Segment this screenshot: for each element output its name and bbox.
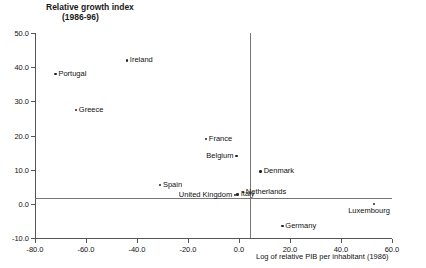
y-axis-line <box>35 33 36 239</box>
zero-vertical-line <box>250 33 251 238</box>
x-tick-label: -60.0 <box>66 245 106 254</box>
y-tick-mark <box>31 33 35 34</box>
y-tick-mark <box>31 170 35 171</box>
scatter-chart: Relative growth index (1986-96) 50.040.0… <box>0 0 426 268</box>
data-point-label: Greece <box>79 106 104 114</box>
y-tick-label: 20.0 <box>1 132 29 141</box>
x-tick-label: 0.0 <box>219 245 259 254</box>
data-point-marker <box>205 138 208 141</box>
chart-title-line1: Relative growth index <box>46 2 134 13</box>
data-point-label: France <box>209 135 232 143</box>
x-tick-mark <box>86 239 87 243</box>
data-point-label: Portugal <box>58 70 86 78</box>
x-tick-label: -40.0 <box>117 245 157 254</box>
data-point-label: Denmark <box>264 167 294 175</box>
y-tick-label: 0.0 <box>1 200 29 209</box>
data-point-label: Spain <box>163 181 182 189</box>
y-tick-mark <box>31 67 35 68</box>
x-tick-mark <box>290 239 291 243</box>
data-point-marker <box>236 193 239 196</box>
x-tick-mark <box>35 239 36 243</box>
x-tick-label: -80.0 <box>15 245 55 254</box>
x-tick-mark <box>392 239 393 243</box>
data-point-marker <box>75 109 78 112</box>
y-tick-label: 10.0 <box>1 166 29 175</box>
x-tick-mark <box>188 239 189 243</box>
data-point-label: Ireland <box>130 56 153 64</box>
y-tick-label: 50.0 <box>1 29 29 38</box>
y-tick-mark <box>31 204 35 205</box>
x-axis-line <box>35 238 392 239</box>
data-point-marker <box>259 170 262 173</box>
x-axis-title: Log of relative PIB per inhabitant (1986… <box>256 252 389 261</box>
data-point-marker <box>54 73 57 76</box>
y-tick-label: -10.0 <box>1 234 29 243</box>
data-point-label: Germany <box>285 222 316 230</box>
data-point-label: Belgium <box>206 152 233 160</box>
x-tick-mark <box>239 239 240 243</box>
y-tick-label: 30.0 <box>1 97 29 106</box>
data-point-marker <box>126 59 129 62</box>
y-tick-label: 40.0 <box>1 63 29 72</box>
y-tick-mark <box>31 136 35 137</box>
chart-title-line2: (1986-96) <box>62 12 99 23</box>
data-point-label: United Kingdom <box>179 191 232 199</box>
x-tick-label: -20.0 <box>168 245 208 254</box>
data-point-marker <box>373 203 376 206</box>
x-tick-mark <box>341 239 342 243</box>
data-point-marker <box>281 225 284 228</box>
data-point-label: Italy <box>241 190 255 198</box>
y-tick-mark <box>31 101 35 102</box>
data-point-marker <box>235 155 238 158</box>
data-point-marker <box>159 184 162 187</box>
x-tick-mark <box>137 239 138 243</box>
data-point-label: Luxembourg <box>348 207 390 215</box>
